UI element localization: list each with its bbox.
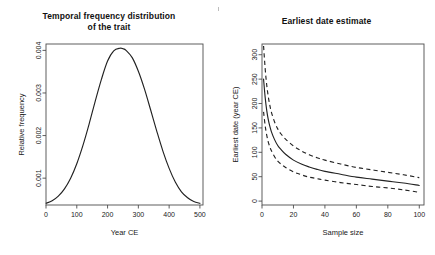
x-tick-label: 0: [260, 211, 264, 218]
y-tick-label: 50: [251, 173, 258, 181]
y-tick-label: 0.002: [35, 127, 42, 145]
x-tick-label: 500: [194, 211, 206, 218]
x-tick-label: 100: [413, 211, 425, 218]
series-line-1: [46, 48, 200, 203]
x-tick-label: 400: [163, 211, 175, 218]
figure-canvas: Temporal frequency distribution of the t…: [0, 0, 435, 255]
series-line-3: [264, 112, 420, 193]
series-group: [264, 46, 420, 192]
x-tick-label: 40: [321, 211, 329, 218]
y-tick-label: 0.003: [35, 84, 42, 102]
chart-panel-temporal-frequency: Temporal frequency distribution of the t…: [0, 0, 218, 255]
chart-panel-earliest-date: Earliest date estimate 02040608010005010…: [218, 0, 435, 255]
x-axis-title: Sample size: [323, 228, 364, 237]
y-axis-title: Relative frequency: [17, 93, 26, 155]
y-tick-label: 0.001: [35, 169, 42, 187]
x-tick-label: 60: [352, 211, 360, 218]
x-tick-label: 80: [384, 211, 392, 218]
x-axis-title: Year CE: [111, 228, 139, 237]
y-axis-title: Earliest date (year CE): [231, 86, 240, 162]
y-tick-label: 150: [251, 122, 258, 134]
x-tick-label: 200: [102, 211, 114, 218]
plot-box: [262, 44, 424, 205]
series-group: [46, 48, 200, 203]
y-tick-label: 250: [251, 73, 258, 85]
x-tick-label: 20: [290, 211, 298, 218]
x-tick-label: 300: [133, 211, 145, 218]
series-line-2: [264, 79, 420, 185]
y-tick-label: 0.004: [35, 42, 42, 60]
y-tick-label: 0: [251, 199, 258, 203]
y-tick-label: 300: [251, 49, 258, 61]
x-tick-label: 100: [71, 211, 83, 218]
plot-area-earliest-date: 020406080100050100150200250300Sample siz…: [218, 0, 435, 255]
x-tick-label: 0: [44, 211, 48, 218]
y-tick-label: 100: [251, 146, 258, 158]
series-line-1: [264, 46, 420, 178]
plot-area-temporal-frequency: 01002003004005000.0010.0020.0030.004Year…: [0, 0, 218, 255]
scan-artifact-speck: [218, 7, 219, 11]
y-tick-label: 200: [251, 98, 258, 110]
